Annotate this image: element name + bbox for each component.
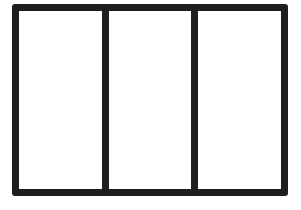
panel-left: [19, 11, 102, 189]
diagram-canvas: [0, 0, 301, 210]
three-panel-frame: [12, 4, 288, 196]
divider-left: [102, 11, 109, 189]
divider-right: [191, 11, 198, 189]
panel-right: [198, 11, 281, 189]
panel-middle: [109, 11, 192, 189]
